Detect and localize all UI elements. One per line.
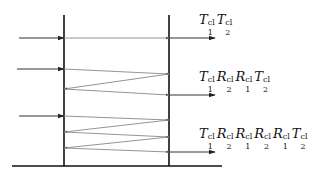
subscript: 2 <box>264 143 269 151</box>
coefficient-symbol: T <box>199 12 208 27</box>
internal-ray-segment <box>64 89 169 95</box>
superscript: cl <box>226 76 233 84</box>
superscript: cl <box>301 133 308 141</box>
coefficient-symbol: R <box>217 69 227 84</box>
internal-ray-segment <box>64 69 169 74</box>
subscript: 1 <box>208 143 213 151</box>
superscript: cl <box>245 76 252 84</box>
superscript: cl <box>208 133 215 141</box>
transmission-label-2: Tcl1Rcl2Rcl1Tcl2 <box>199 70 272 83</box>
subscript: 2 <box>226 143 231 151</box>
transmission-label-1: Tcl1Tcl2 <box>199 13 234 26</box>
coefficient-symbol: R <box>217 126 227 141</box>
subscript: 1 <box>245 143 250 151</box>
internal-ray-segment <box>64 120 169 132</box>
internal-ray-segment <box>64 132 169 137</box>
coefficient-symbol: T <box>217 12 226 27</box>
ray-diagram <box>0 0 329 176</box>
internal-ray-segment <box>64 148 169 152</box>
subscript: 1 <box>245 86 250 94</box>
subscript: 1 <box>208 86 213 94</box>
subscript: 1 <box>283 143 288 151</box>
superscript: cl <box>208 76 215 84</box>
subscript: 2 <box>301 143 306 151</box>
superscript: cl <box>264 133 271 141</box>
internal-ray-segment <box>64 137 169 148</box>
superscript: cl <box>245 133 252 141</box>
coefficient-symbol: T <box>199 69 208 84</box>
coefficient-symbol: R <box>254 126 264 141</box>
superscript: cl <box>226 133 233 141</box>
coefficient-symbol: T <box>199 126 208 141</box>
superscript: cl <box>263 76 270 84</box>
rays <box>17 38 215 152</box>
internal-ray-segment <box>64 116 169 120</box>
superscript: cl <box>283 133 290 141</box>
transmission-label-3: Tcl1Rcl2Rcl1Rcl2Rcl1Tcl2 <box>199 127 310 140</box>
coefficient-symbol: T <box>254 69 263 84</box>
subscript: 2 <box>263 86 268 94</box>
subscript: 2 <box>226 86 231 94</box>
coefficient-symbol: R <box>235 69 245 84</box>
subscript: 2 <box>225 29 230 37</box>
internal-ray-segment <box>64 74 169 89</box>
coefficient-symbol: R <box>273 126 283 141</box>
subscript: 1 <box>208 29 213 37</box>
coefficient-symbol: T <box>292 126 301 141</box>
coefficient-symbol: R <box>235 126 245 141</box>
superscript: cl <box>225 19 232 27</box>
superscript: cl <box>208 19 215 27</box>
